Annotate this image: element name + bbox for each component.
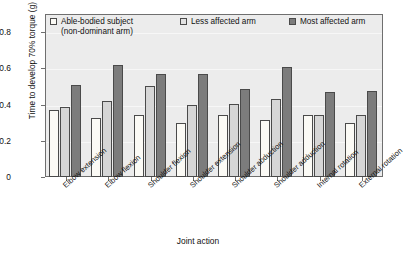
y-axis-tick-mark [41,177,45,178]
y-axis-tick-label: 0 [0,172,11,182]
legend-label: Most affected arm [300,17,365,27]
legend-label: Able-bodied subject(non-dominant arm) [61,17,133,36]
legend-label: Less affected arm [191,17,256,27]
legend-label-line2: (non-dominant arm) [61,27,133,37]
y-axis-tick-label: 0.8 [0,27,11,37]
y-axis-tick-label: 0.2 [0,136,11,146]
bar [60,107,70,177]
bar [240,89,250,177]
chart-legend: Able-bodied subject(non-dominant arm)Les… [50,17,365,36]
bar [102,101,112,177]
legend-swatch-icon [289,18,296,25]
bar [71,85,81,177]
bar [187,105,197,177]
legend-item: Most affected arm [289,17,365,27]
bar [49,110,59,177]
bar-group [45,14,87,177]
bar [156,74,166,177]
bar [271,99,281,177]
legend-swatch-icon [50,18,57,25]
y-axis-title: Time to develop 70% torque (g) [28,0,37,141]
bar [134,115,144,177]
bar [367,91,377,177]
y-axis-tick-label: 0.4 [0,100,11,110]
bar [282,67,292,177]
bar [145,86,155,177]
bar [356,115,366,177]
bar [218,115,228,177]
legend-item: Able-bodied subject(non-dominant arm) [50,17,180,36]
legend-swatch-icon [180,18,187,25]
x-axis-title: Joint action [0,236,396,246]
y-axis-tick-label: 0.6 [0,63,11,73]
bar [325,92,335,177]
bar [113,65,123,177]
legend-item: Less affected arm [180,17,289,27]
bar [198,74,208,177]
